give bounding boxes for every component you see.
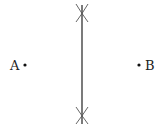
point-a-dot bbox=[23, 63, 26, 66]
point-a-label: A bbox=[9, 58, 20, 73]
point-b-dot bbox=[137, 63, 140, 66]
bisector-diagram: A B bbox=[0, 0, 164, 132]
point-b-label: B bbox=[145, 58, 155, 73]
